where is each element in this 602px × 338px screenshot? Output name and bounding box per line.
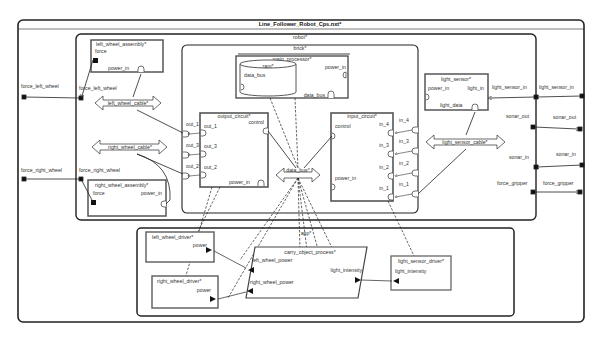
light-sensor-driver-light-intensity: light_intensity [395, 268, 427, 274]
light-sensor-title: light_sensor* [441, 76, 471, 82]
left-wheel-driver-title: left_wheel_driver* [152, 234, 193, 240]
svg-text:in_1: in_1 [399, 181, 409, 187]
system-sonar-in: sonar_in [556, 151, 576, 157]
output-circuit[interactable]: output_circuit* out_1 out_3 out_2 contro… [200, 113, 268, 187]
input-circuit[interactable]: input_circuit* control power_in in_4 in_… [331, 113, 393, 201]
output-circuit-out3: out_3 [204, 143, 217, 149]
brick-title: brick* [294, 45, 307, 51]
brick-out2-label: out_2 [186, 163, 199, 169]
left-wheel-assembly-power-in: power_in [108, 65, 129, 71]
light-sensor-cable[interactable]: light_sensor_cable* [426, 135, 505, 149]
power-in-port-icon[interactable] [426, 94, 429, 100]
force-port-icon[interactable] [93, 58, 98, 63]
carry-object-process-title: carry_object_process* [284, 249, 335, 255]
robot-light-sensor-in: light_sensor_in [492, 84, 527, 90]
input-circuit-in3: in_3 [379, 142, 389, 148]
right-wheel-assembly-force: force [93, 190, 105, 196]
system-force-left-wheel: force_left_wheel [21, 83, 59, 89]
system-light-sensor-in: light_sensor_in [539, 84, 574, 90]
output-circuit-control: control [248, 119, 264, 125]
left-wheel-driver[interactable]: left_wheel_driver* power [146, 232, 214, 262]
out2-port-icon[interactable] [201, 172, 206, 178]
carry-object-process[interactable]: carry_object_process* left_wheel_power r… [246, 247, 367, 298]
brick-out1-label: out_1 [186, 121, 199, 127]
app-title: app* [301, 230, 312, 236]
system-sonar-out: sonar_out [553, 114, 577, 120]
input-circuit-title: input_circuit* [347, 113, 377, 119]
output-circuit-title: output_circuit* [218, 113, 251, 119]
data-bus-port-icon[interactable] [328, 91, 334, 98]
force-port-icon[interactable] [91, 200, 96, 205]
left-wheel-cable[interactable]: left_wheel_cable* [95, 96, 161, 110]
left-wheel-cable-label: left_wheel_cable* [108, 100, 149, 106]
light-sensor-light-data: light_data [440, 102, 463, 108]
out3-port-icon[interactable] [201, 151, 206, 157]
light-data-port-icon[interactable] [472, 104, 478, 110]
input-circuit-control: control [335, 123, 351, 129]
power-in-port-icon[interactable] [138, 66, 144, 72]
carry-right-wheel-power: right_wheel_power [250, 279, 294, 285]
left-wheel-assembly-force: force [95, 48, 107, 54]
brick-in-ports: in_4 in_3 in_2 in_1 [396, 117, 418, 197]
light-sensor-driver-title: light_sensor_driver* [398, 258, 444, 264]
right-wheel-assembly-title: right_wheel_assembly* [95, 182, 148, 188]
svg-text:in_4: in_4 [399, 117, 409, 123]
robot-title: robot* [293, 34, 307, 40]
brick-out-ports: out_1 out_3 out_2 [183, 121, 200, 179]
svg-text:in_2: in_2 [399, 160, 409, 166]
input-circuit-power-in: power_in [335, 175, 356, 181]
system-force-right-wheel: force_right_wheel [21, 167, 62, 173]
power-in-port-icon[interactable] [332, 184, 335, 190]
out1-port-icon[interactable] [201, 130, 206, 136]
light-sensor-light-in: light_in [468, 85, 485, 91]
ram-storage[interactable]: ram* data_bus [240, 60, 296, 96]
right-wheel-assembly-power-in: power_in [141, 190, 162, 196]
control-port-icon[interactable] [332, 133, 335, 139]
light-sensor[interactable]: light_sensor* power_in light_in light_da… [425, 74, 488, 110]
output-circuit-out1: out_1 [204, 123, 217, 129]
architecture-diagram: Line_Follower_Robot_Cps.nxt* robot* bric… [0, 0, 602, 338]
light-sensor-cable-label: light_sensor_cable* [442, 139, 487, 145]
power-in-port-icon[interactable] [343, 72, 346, 78]
system-title: Line_Follower_Robot_Cps.nxt* [259, 21, 342, 27]
carry-left-wheel-power: left_wheel_power [252, 257, 293, 263]
ram-data-bus-label: data_bus [244, 72, 266, 78]
main-processor-data-bus-label: data_bus [304, 92, 326, 98]
robot-sonar-in: sonar_in [509, 154, 529, 160]
ram-port-icon[interactable] [241, 84, 244, 90]
power-in-port-icon[interactable] [258, 180, 264, 186]
brick-out3-label: out_3 [186, 142, 199, 148]
right-wheel-cable-label: right_wheel_cable* [108, 144, 152, 150]
input-circuit-in1: in_1 [379, 185, 389, 191]
left-wheel-assembly[interactable]: left_wheel_assembly* force power_in [91, 40, 163, 72]
light-sensor-driver[interactable]: light_sensor_driver* light_intensity [391, 256, 451, 290]
power-in-port-icon[interactable] [161, 201, 166, 207]
output-circuit-out2: out_2 [204, 164, 217, 170]
output-circuit-power-in: power_in [229, 179, 250, 185]
svg-text:in_3: in_3 [399, 138, 409, 144]
main-processor-power-in-label: power_in [325, 64, 346, 70]
right-wheel-cable[interactable]: right_wheel_cable* [92, 140, 167, 154]
carry-light-intensity: light_intensity [331, 267, 363, 273]
robot-force-right-wheel: force_right_wheel [79, 167, 120, 173]
input-circuit-in2: in_2 [379, 164, 389, 170]
right-wheel-assembly[interactable]: right_wheel_assembly* force power_in [88, 180, 166, 216]
control-port-icon[interactable] [263, 128, 268, 134]
right-wheel-driver[interactable]: right_wheel_driver* power [152, 276, 218, 308]
left-wheel-assembly-title: left_wheel_assembly* [96, 41, 146, 47]
right-wheel-driver-title: right_wheel_driver* [157, 278, 201, 284]
system-force-gripper: force_gripper [543, 180, 574, 186]
input-circuit-in4: in_4 [379, 121, 389, 127]
robot-sonar-out: sonar_out [506, 113, 530, 119]
light-sensor-power-in: power_in [428, 85, 449, 91]
ram-title: ram* [263, 63, 274, 69]
right-wheel-driver-power: power [197, 287, 211, 293]
robot-force-gripper: force_gripper [497, 180, 528, 186]
left-wheel-driver-power: power [193, 242, 207, 248]
